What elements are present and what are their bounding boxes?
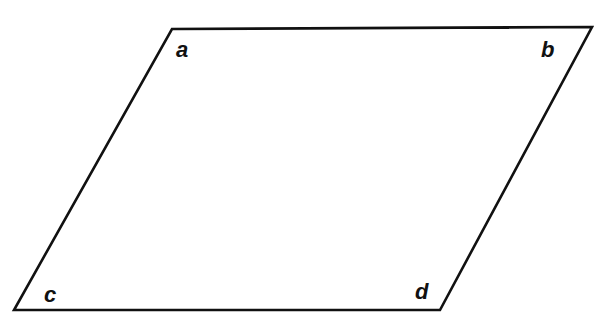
parallelogram-diagram: a b c d (0, 0, 612, 323)
parallelogram-outline (14, 27, 592, 310)
corner-label-b: b (541, 37, 554, 62)
corner-label-c: c (44, 282, 56, 307)
corner-label-d: d (415, 279, 429, 304)
corner-label-a: a (176, 37, 188, 62)
